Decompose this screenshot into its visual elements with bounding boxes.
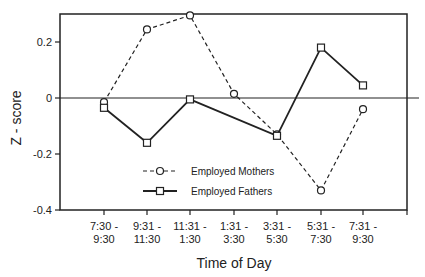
x-tick-label: 1:30 xyxy=(179,233,200,245)
x-axis-title: Time of Day xyxy=(197,255,272,271)
x-tick-label: 1:31 - xyxy=(220,220,248,232)
x-tick-label: 7:30 - xyxy=(90,220,118,232)
y-tick-label: -0.2 xyxy=(33,148,52,160)
x-tick-label: 5:31 - xyxy=(307,220,335,232)
legend-label: Employed Mothers xyxy=(191,166,274,177)
x-tick-label: 7:30 xyxy=(310,233,331,245)
square-marker xyxy=(144,139,151,146)
circle-marker xyxy=(318,187,325,194)
square-marker xyxy=(274,132,281,139)
circle-marker xyxy=(360,106,367,113)
y-tick-label: 0 xyxy=(46,92,52,104)
x-tick-label: 11:31 - xyxy=(173,220,207,232)
y-tick-label: -0.4 xyxy=(33,204,52,216)
legend: Employed MothersEmployed Fathers xyxy=(143,166,274,197)
square-marker xyxy=(187,96,194,103)
y-tick-label: 0.2 xyxy=(37,36,52,48)
x-tick-label: 11:30 xyxy=(134,233,161,245)
line-chart: 0.20-0.2-0.4 7:30 -9:309:31 -11:3011:31 … xyxy=(0,0,425,277)
x-tick-label: 5:30 xyxy=(266,233,287,245)
x-tick-label: 9:30 xyxy=(93,233,114,245)
legend-square-icon xyxy=(157,188,164,195)
y-axis: 0.20-0.2-0.4 xyxy=(33,36,60,216)
circle-marker xyxy=(187,12,194,19)
x-tick-label: 3:30 xyxy=(223,233,244,245)
x-tick-label: 9:31 - xyxy=(133,220,161,232)
square-marker xyxy=(101,104,108,111)
circle-marker xyxy=(144,26,151,33)
series-line-mothers xyxy=(104,15,363,190)
legend-label: Employed Fathers xyxy=(191,186,272,197)
x-tick-label: 7:31 - xyxy=(349,220,377,232)
x-axis: 7:30 -9:309:31 -11:3011:31 -1:301:31 -3:… xyxy=(90,210,407,245)
legend-circle-icon xyxy=(157,168,164,175)
square-marker xyxy=(360,82,367,89)
x-tick-label: 3:31 - xyxy=(263,220,291,232)
square-marker xyxy=(318,44,325,51)
y-axis-title: Z - score xyxy=(8,90,24,145)
x-tick-label: 9:30 xyxy=(352,233,373,245)
circle-marker xyxy=(231,90,238,97)
